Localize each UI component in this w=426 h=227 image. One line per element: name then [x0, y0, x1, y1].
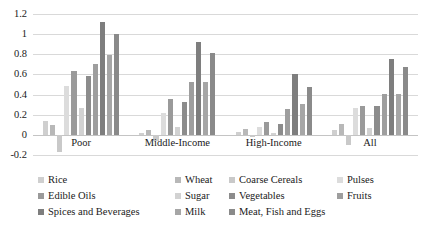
y-axis-tick-label: 0.8: [14, 49, 27, 60]
bar: [285, 109, 290, 135]
legend-swatch-icon: [337, 177, 343, 183]
y-axis-tick-label: -0.2: [10, 150, 27, 161]
legend-swatch-icon: [337, 193, 343, 199]
legend-label: Spices and Beverages: [48, 207, 140, 218]
legend-label: Wheat: [185, 175, 212, 186]
chart-legend: RiceWheatCoarse CerealsPulsesEdible Oils…: [0, 172, 426, 224]
legend-item[interactable]: Coarse Cereals: [229, 175, 302, 186]
y-axis-tick-label: 1: [22, 29, 27, 40]
legend-swatch-icon: [38, 177, 44, 183]
gridline: [33, 155, 418, 156]
x-axis-group-label: Middle-Income: [129, 134, 225, 152]
bar: [100, 22, 105, 135]
legend-label: Pulses: [347, 175, 374, 186]
legend-item[interactable]: Meat, Fish and Eggs: [229, 207, 325, 218]
legend-item[interactable]: Sugar: [175, 191, 210, 202]
bar: [374, 106, 379, 135]
legend-item[interactable]: Pulses: [337, 175, 374, 186]
x-axis-group-label: High-Income: [226, 134, 322, 152]
legend-label: Vegetables: [239, 191, 284, 202]
legend-label: Meat, Fish and Eggs: [239, 207, 325, 218]
legend-label: Sugar: [185, 191, 210, 202]
bar: [300, 104, 305, 135]
legend-item[interactable]: Edible Oils: [38, 191, 96, 202]
bar: [360, 106, 365, 135]
bar: [189, 82, 194, 134]
bar: [353, 108, 358, 135]
legend-row: Edible OilsSugarVegetablesFruits: [0, 188, 426, 204]
bar: [114, 34, 119, 135]
bar: [203, 82, 208, 134]
legend-swatch-icon: [175, 177, 181, 183]
bar-chart-figure: 1.210.80.60.40.20-0.2 PoorMiddle-IncomeH…: [0, 0, 426, 227]
bar: [264, 122, 269, 135]
legend-item[interactable]: Wheat: [175, 175, 212, 186]
bar: [168, 99, 173, 135]
y-axis-tick-label: 0.4: [14, 89, 27, 100]
bar: [107, 55, 112, 135]
legend-swatch-icon: [38, 209, 44, 215]
legend-item[interactable]: Milk: [175, 207, 205, 218]
bar: [64, 86, 69, 135]
bar: [382, 94, 387, 135]
bar: [389, 59, 394, 135]
bar: [71, 71, 76, 134]
legend-item[interactable]: Vegetables: [229, 191, 284, 202]
x-axis-category-labels: PoorMiddle-IncomeHigh-IncomeAll: [33, 134, 418, 152]
bar: [161, 113, 166, 135]
legend-swatch-icon: [38, 193, 44, 199]
bar: [210, 53, 215, 135]
legend-swatch-icon: [175, 193, 181, 199]
y-axis-tick-label: 0: [22, 130, 27, 141]
y-axis-tick-label: 1.2: [14, 9, 27, 20]
x-axis-group-label: Poor: [33, 134, 129, 152]
y-axis: 1.210.80.60.40.20-0.2: [0, 14, 31, 155]
x-axis-group-label: All: [322, 134, 418, 152]
legend-item[interactable]: Spices and Beverages: [38, 207, 140, 218]
bar: [93, 64, 98, 135]
bar: [403, 67, 408, 134]
legend-label: Coarse Cereals: [239, 175, 302, 186]
bar: [396, 94, 401, 135]
legend-label: Edible Oils: [48, 191, 96, 202]
legend-swatch-icon: [175, 209, 181, 215]
legend-label: Rice: [48, 175, 67, 186]
bar: [86, 76, 91, 134]
bar: [182, 102, 187, 135]
legend-row: RiceWheatCoarse CerealsPulses: [0, 172, 426, 188]
legend-label: Milk: [185, 207, 205, 218]
legend-item[interactable]: Rice: [38, 175, 67, 186]
bar: [43, 121, 48, 135]
bar: [292, 74, 297, 134]
legend-label: Fruits: [347, 191, 372, 202]
legend-swatch-icon: [229, 193, 235, 199]
bar: [307, 87, 312, 135]
legend-swatch-icon: [229, 209, 235, 215]
y-axis-tick-label: 0.6: [14, 69, 27, 80]
legend-item[interactable]: Fruits: [337, 191, 372, 202]
y-axis-tick-label: 0.2: [14, 109, 27, 120]
bar: [196, 42, 201, 135]
bar: [79, 108, 84, 135]
legend-swatch-icon: [229, 177, 235, 183]
legend-row: Spices and BeveragesMilkMeat, Fish and E…: [0, 204, 426, 220]
